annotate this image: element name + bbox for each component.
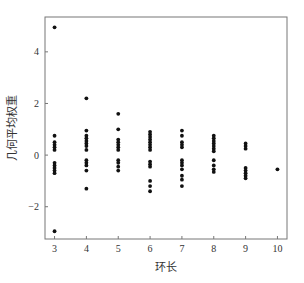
data-point <box>212 158 216 162</box>
data-point <box>180 184 184 188</box>
data-point <box>148 148 152 152</box>
x-tick-label: 4 <box>84 243 89 254</box>
data-point <box>53 25 57 29</box>
data-point <box>53 134 57 138</box>
data-point <box>116 112 120 116</box>
data-points <box>53 25 280 233</box>
y-tick-label: 2 <box>34 98 39 109</box>
y-axis-title: 几何平均权重 <box>5 95 19 161</box>
data-point <box>84 148 88 152</box>
x-tick-label: 5 <box>116 243 121 254</box>
data-point <box>53 171 57 175</box>
x-tick-label: 6 <box>148 243 153 254</box>
data-point <box>148 179 152 183</box>
data-point <box>180 164 184 168</box>
data-point <box>212 170 216 174</box>
y-tick-label: 0 <box>34 150 39 161</box>
data-point <box>180 145 184 149</box>
x-tick-label: 7 <box>179 243 184 254</box>
data-point <box>180 134 184 138</box>
data-point <box>276 167 280 171</box>
plot-frame <box>45 17 287 239</box>
data-point <box>116 165 120 169</box>
data-point <box>180 167 184 171</box>
data-point <box>116 161 120 165</box>
data-point <box>84 96 88 100</box>
data-point <box>84 164 88 168</box>
data-point <box>180 174 184 178</box>
x-tick-label: 10 <box>272 243 282 254</box>
data-point <box>116 127 120 131</box>
y-tick-label: 4 <box>34 46 39 57</box>
data-point <box>180 129 184 133</box>
data-point <box>212 164 216 168</box>
scatter-chart: 345678910 −2024 环长 几何平均权重 <box>0 0 304 283</box>
data-point <box>84 187 88 191</box>
data-point <box>148 189 152 193</box>
data-point <box>53 229 57 233</box>
data-point <box>116 169 120 173</box>
data-point <box>244 147 248 151</box>
x-tick-label: 9 <box>243 243 248 254</box>
data-point <box>148 184 152 188</box>
data-point <box>212 149 216 153</box>
y-tick-label: −2 <box>28 201 39 212</box>
x-tick-label: 3 <box>52 243 57 254</box>
data-point <box>244 176 248 180</box>
data-point <box>148 165 152 169</box>
data-point <box>84 169 88 173</box>
data-point <box>116 148 120 152</box>
data-point <box>53 148 57 152</box>
x-axis-title: 环长 <box>155 261 177 274</box>
data-point <box>84 129 88 133</box>
data-point <box>84 144 88 148</box>
data-point <box>180 178 184 182</box>
x-tick-label: 8 <box>211 243 216 254</box>
